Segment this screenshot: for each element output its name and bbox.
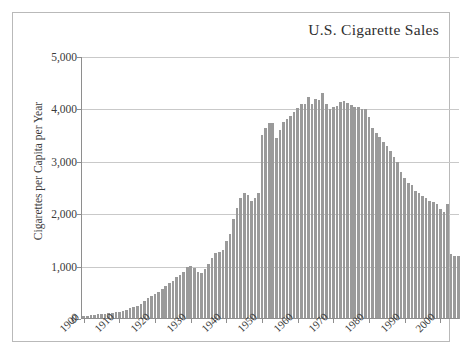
y-tick-label: 4,000: [51, 103, 77, 115]
bar: [197, 272, 200, 319]
figure-root: U.S. Cigarette Sales Cigarettes per Capi…: [0, 0, 463, 353]
bar: [400, 172, 403, 319]
bar: [336, 106, 339, 319]
bar: [325, 104, 328, 319]
bar: [207, 264, 210, 319]
bar: [304, 104, 307, 319]
x-tick-mark: [119, 319, 120, 323]
bar: [275, 138, 278, 319]
bar: [286, 119, 289, 319]
bar: [343, 101, 346, 319]
bar: [350, 105, 353, 319]
bar: [271, 123, 274, 319]
x-tick-mark: [226, 319, 227, 323]
y-tick-mark: [77, 162, 81, 163]
bar: [218, 252, 221, 319]
x-tick-mark: [369, 319, 370, 323]
bar: [150, 296, 153, 319]
bar: [329, 109, 332, 319]
bar: [428, 201, 431, 319]
bar: [172, 281, 175, 320]
y-tick-label: 5,000: [51, 51, 77, 63]
bar: [236, 208, 239, 319]
bar: [457, 256, 460, 319]
bar: [371, 128, 374, 319]
x-tick-mark: [262, 319, 263, 323]
bar: [189, 266, 192, 319]
bar: [450, 254, 453, 320]
bar: [311, 104, 314, 319]
y-tick-mark: [77, 267, 81, 268]
bar: [414, 191, 417, 319]
bar: [250, 201, 253, 319]
bar: [289, 116, 292, 319]
y-tick-mark: [77, 57, 81, 58]
bar: [446, 204, 449, 319]
y-tick-label: 2,000: [51, 208, 77, 220]
bar: [154, 294, 157, 319]
bar: [357, 107, 360, 319]
bar: [386, 146, 389, 319]
x-tick-mark: [333, 319, 334, 323]
bar: [157, 292, 160, 320]
y-tick-mark: [77, 214, 81, 215]
bar: [296, 108, 299, 319]
bar: [232, 219, 235, 319]
bar: [421, 196, 424, 319]
x-tick-mark: [155, 319, 156, 323]
bar: [332, 107, 335, 319]
bar: [307, 97, 310, 319]
bar: [211, 258, 214, 319]
bar: [282, 122, 285, 319]
gridline: [81, 57, 459, 58]
x-tick-mark: [440, 319, 441, 323]
bar: [389, 151, 392, 319]
bar: [268, 123, 271, 319]
bar: [393, 157, 396, 319]
bar: [261, 135, 264, 319]
bar: [411, 185, 414, 319]
chart-title: U.S. Cigarette Sales: [308, 21, 439, 39]
gridline: [81, 109, 459, 110]
y-tick-label: 3,000: [51, 156, 77, 168]
bar: [279, 130, 282, 319]
x-tick-mark: [405, 319, 406, 323]
bar: [200, 273, 203, 319]
bar: [425, 198, 428, 319]
bar: [247, 195, 250, 319]
y-axis-line: [81, 57, 82, 319]
bar: [229, 234, 232, 319]
bar: [222, 250, 225, 319]
x-tick-mark: [191, 319, 192, 323]
bar: [204, 269, 207, 319]
bar: [364, 109, 367, 319]
bar: [361, 109, 364, 319]
bar: [239, 198, 242, 319]
plot-inner: 01,0002,0003,0004,0005,000: [81, 57, 459, 319]
x-tick-mark: [84, 319, 85, 323]
bar: [318, 100, 321, 319]
y-tick-label: 1,000: [51, 261, 77, 273]
bar: [225, 241, 228, 319]
bar: [164, 286, 167, 319]
bar: [418, 193, 421, 319]
bar: [254, 198, 257, 319]
bar: [439, 209, 442, 319]
bar: [382, 142, 385, 319]
bar: [321, 93, 324, 319]
bar: [436, 204, 439, 319]
bar: [339, 102, 342, 319]
bar: [243, 193, 246, 319]
bar: [293, 112, 296, 319]
bar: [407, 183, 410, 319]
bar: [300, 104, 303, 319]
x-tick-mark: [298, 319, 299, 323]
bar: [214, 253, 217, 319]
y-tick-mark: [77, 109, 81, 110]
bar: [403, 178, 406, 319]
plot-area: 01,0002,0003,0004,0005,000: [81, 57, 459, 319]
bar: [193, 268, 196, 319]
bar: [432, 202, 435, 319]
chart-frame: U.S. Cigarette Sales Cigarettes per Capi…: [12, 12, 450, 342]
bar: [182, 272, 185, 319]
